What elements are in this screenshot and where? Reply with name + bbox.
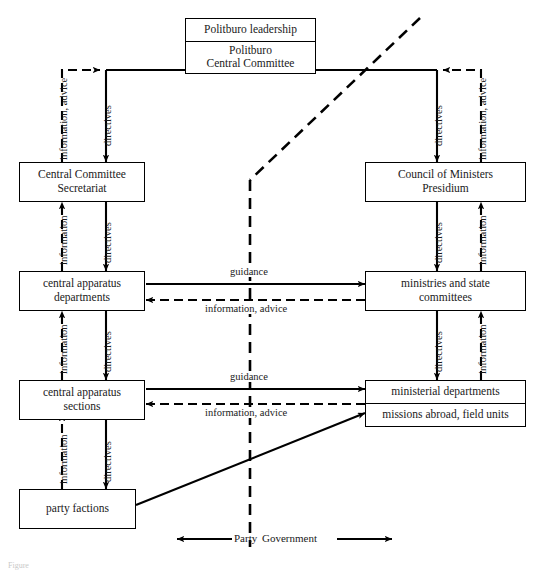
edge-label-left-directives-3: directives	[102, 331, 113, 372]
edge-label-left-information-4: information	[58, 434, 69, 484]
ministries-line1: ministries and state	[401, 277, 490, 291]
cc-secretariat-line2: Secretariat	[57, 182, 106, 196]
edge-label-left-directives-4: directives	[102, 441, 113, 482]
council-ministers-line1: Council of Ministers	[398, 168, 493, 182]
node-council-of-ministers[interactable]: Council of Ministers Presidium	[365, 162, 526, 202]
node-central-apparatus-sections[interactable]: central apparatus sections	[19, 380, 145, 420]
politburo-cc-line1: Politburo	[229, 44, 272, 58]
node-politburo[interactable]: Politburo leadership Politburo Central C…	[185, 18, 316, 74]
node-party-factions[interactable]: party factions	[19, 489, 136, 529]
edge-label-right-directives-2: directives	[433, 222, 444, 263]
edge-label-left-information-2: information	[58, 215, 69, 265]
edge-label-right-information-2: information	[477, 215, 488, 265]
node-ministerial-units[interactable]: ministerial departments missions abroad,…	[365, 380, 526, 427]
missions-abroad-label: missions abroad, field units	[366, 403, 525, 426]
central-sections-line1: central apparatus	[43, 386, 121, 400]
cc-secretariat-line1: Central Committee	[38, 168, 126, 182]
node-cc-secretariat[interactable]: Central Committee Secretariat	[19, 162, 145, 202]
central-departments-line1: central apparatus	[43, 277, 121, 291]
organization-diagram: Politburo leadership Politburo Central C…	[0, 0, 545, 572]
ministerial-departments-label: ministerial departments	[366, 381, 525, 403]
edge-label-right-info-advice-top: information, advice	[477, 78, 488, 160]
edge-label-right-information-3: information	[477, 324, 488, 374]
edge-label-right-directives-3: directives	[433, 331, 444, 372]
central-sections-line2: sections	[63, 400, 100, 414]
edge-label-left-directives-top: directives	[102, 105, 113, 146]
edge-label-left-information-3: information	[58, 324, 69, 374]
edge-label-left-info-advice-top: information, advice	[58, 78, 69, 160]
edge-label-guidance-lower: guidance	[228, 371, 270, 382]
politburo-leadership-label: Politburo leadership	[186, 19, 315, 41]
central-departments-line2: departments	[54, 291, 110, 305]
ministries-line2: committees	[419, 291, 472, 305]
edge-label-guidance-upper: guidance	[228, 266, 270, 277]
legend-label-party: Party	[234, 532, 257, 544]
edge-label-info-advice-upper: information, advice	[203, 303, 289, 314]
legend-label-government: Government	[262, 532, 317, 544]
politburo-cc-line2: Central Committee	[207, 57, 295, 71]
node-central-apparatus-departments[interactable]: central apparatus departments	[19, 271, 145, 311]
edge-label-info-advice-lower: information, advice	[203, 407, 289, 418]
party-factions-label: party factions	[20, 500, 135, 518]
politburo-central-committee-label: Politburo Central Committee	[186, 41, 315, 73]
node-ministries-and-state-committees[interactable]: ministries and state committees	[365, 271, 526, 311]
figure-caption: Figure	[8, 561, 29, 570]
council-ministers-line2: Presidium	[422, 182, 469, 196]
edge-label-right-directives-top: directives	[433, 105, 444, 146]
edge-label-left-directives-2: directives	[102, 222, 113, 263]
